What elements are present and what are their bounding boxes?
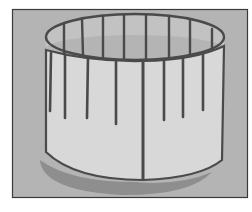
cylinder-front-wall <box>46 46 224 180</box>
illustration-canvas <box>0 0 252 212</box>
cylinder-illustration <box>0 0 252 212</box>
